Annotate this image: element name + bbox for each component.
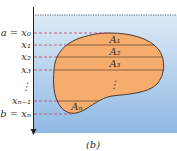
figure-caption: (b) [86, 139, 100, 150]
label-A3: A₃ [108, 58, 120, 69]
label-vdots: ⋮ [21, 81, 31, 92]
label-x2: x₂ [21, 51, 31, 62]
label-A2: A₂ [108, 46, 120, 57]
plate-diagram: a = x₀ x₁ x₂ x₃ ⋮ xₙ₋₁ b = xₙ A₁ A₂ A₃ ⋮… [0, 0, 177, 151]
label-xn-1: xₙ₋₁ [12, 95, 31, 106]
label-a-x0: a = x₀ [1, 27, 31, 38]
label-An: Aₙ [70, 101, 82, 112]
label-A1: A₁ [108, 34, 120, 45]
label-x3: x₃ [21, 64, 31, 75]
label-dots: ⋮ [109, 79, 119, 90]
label-x1: x₁ [21, 39, 31, 50]
label-b-xn: b = xₙ [0, 108, 31, 119]
